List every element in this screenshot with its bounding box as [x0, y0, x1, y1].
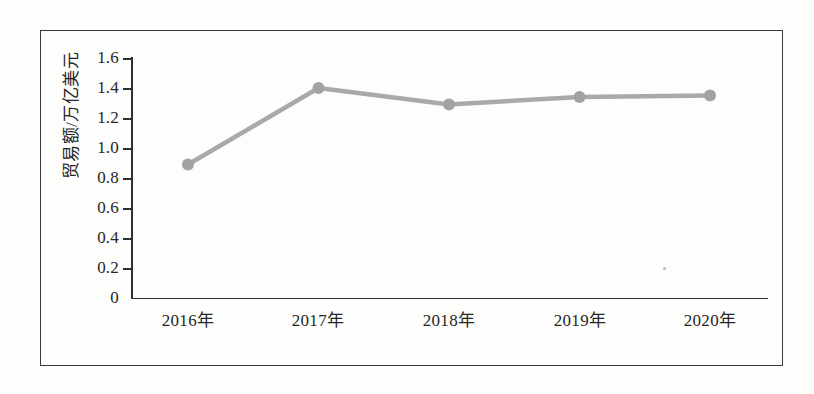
y-tick-mark: [123, 238, 131, 240]
y-tick-mark: [123, 58, 131, 60]
y-tick-label: 1.2: [79, 109, 119, 126]
y-tick-1.4: 1.4: [0, 88, 119, 89]
y-tick-0.2: 0.2: [0, 268, 119, 269]
y-axis-title: 贸易额/万亿美元: [57, 36, 82, 196]
y-tick-mark: [123, 208, 131, 210]
x-tick-label-2019: 2019年: [525, 306, 635, 331]
data-point-2020年: [704, 90, 716, 102]
y-tick-0: 0: [0, 298, 119, 299]
data-point-2018年: [443, 99, 455, 111]
data-point-2019年: [574, 91, 586, 103]
y-tick-label: 0.8: [79, 169, 119, 186]
y-tick-1.6: 1.6: [0, 58, 119, 59]
series-markers: [182, 82, 716, 171]
y-tick-mark: [123, 88, 131, 90]
x-tick-label-2020: 2020年: [655, 306, 765, 331]
y-tick-label: 0.4: [79, 229, 119, 246]
y-tick-label: 1.0: [79, 139, 119, 156]
y-tick-0.4: 0.4: [0, 238, 119, 239]
y-tick-1.2: 1.2: [0, 118, 119, 119]
scan-speck: [663, 267, 666, 270]
y-tick-mark: [123, 178, 131, 180]
y-tick-label: 1.4: [79, 79, 119, 96]
x-tick-label-2016: 2016年: [133, 306, 243, 331]
y-tick-mark: [123, 148, 131, 150]
y-tick-mark: [123, 268, 131, 270]
x-tick-label-2017: 2017年: [263, 306, 373, 331]
y-tick-0.8: 0.8: [0, 178, 119, 179]
y-tick-mark: [123, 118, 131, 120]
series-polyline: [188, 88, 710, 165]
data-point-2017年: [313, 82, 325, 94]
chart-page: 贸易额/万亿美元 1.6 1.4 1.2 1.0 0.8 0.6 0.4: [0, 0, 814, 394]
x-tick-label-2018: 2018年: [394, 306, 504, 331]
x-axis-line: [131, 298, 768, 300]
plot-area: 贸易额/万亿美元 1.6 1.4 1.2 1.0 0.8 0.6 0.4: [0, 0, 814, 394]
y-tick-label: 0.6: [79, 199, 119, 216]
data-point-2016年: [182, 159, 194, 171]
y-tick-label: 0.2: [79, 259, 119, 276]
y-tick-label: 0: [79, 289, 119, 306]
y-tick-0.6: 0.6: [0, 208, 119, 209]
y-axis-line: [131, 57, 133, 299]
y-tick-1.0: 1.0: [0, 148, 119, 149]
y-tick-label: 1.6: [79, 49, 119, 66]
